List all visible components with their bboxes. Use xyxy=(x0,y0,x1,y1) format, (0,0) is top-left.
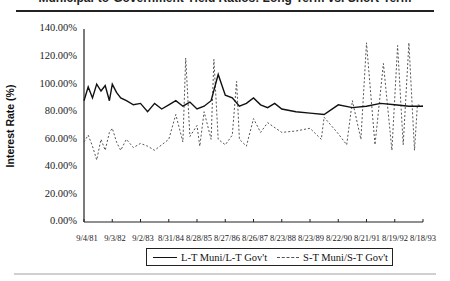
dashed-line-swatch-icon xyxy=(277,257,299,258)
x-tick-label: 8/28/85 xyxy=(186,233,212,243)
x-tick-label: 8/27/86 xyxy=(214,233,240,243)
x-tick-label: 8/18/93 xyxy=(410,233,436,243)
x-tick-label: 9/3/82 xyxy=(104,233,126,243)
chart-legend: L-T Muni/L-T Gov't S-T Muni/S-T Gov't xyxy=(146,248,393,266)
x-tick-label: 9/4/81 xyxy=(76,233,98,243)
solid-line-swatch-icon xyxy=(153,257,177,258)
x-tick-label: 8/23/89 xyxy=(298,233,324,243)
x-tick-label: 8/22/90 xyxy=(326,233,352,243)
x-tick-label: 8/21/91 xyxy=(354,233,380,243)
legend-label: L-T Muni/L-T Gov't xyxy=(181,252,267,263)
x-tick-label: 8/19/92 xyxy=(382,233,408,243)
x-tick-label: 8/26/87 xyxy=(242,233,268,243)
bottom-rule xyxy=(14,273,436,275)
x-tick-label: 8/31/84 xyxy=(158,233,184,243)
series-lt-line xyxy=(84,75,423,115)
legend-item-st: S-T Muni/S-T Gov't xyxy=(267,252,388,263)
x-tick-label: 8/23/88 xyxy=(270,233,296,243)
legend-item-lt: L-T Muni/L-T Gov't xyxy=(147,252,267,263)
series-st-line xyxy=(84,43,423,160)
legend-label: S-T Muni/S-T Gov't xyxy=(303,252,388,263)
x-tick-label: 9/2/83 xyxy=(132,233,154,243)
